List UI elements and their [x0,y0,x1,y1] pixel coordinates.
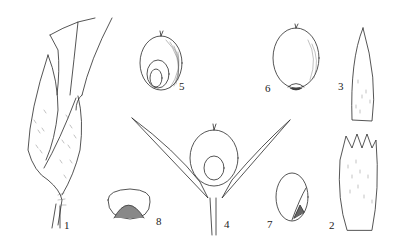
figure-label-3: 3 [338,80,344,92]
figure-8-cross-section [108,189,150,219]
figure-label-1: 1 [64,219,70,231]
figure-7-palea [276,173,308,221]
figure-label-8: 8 [156,215,162,227]
plate-drawing [0,0,396,243]
figure-1-spikelet [28,18,112,228]
figure-label-5: 5 [179,80,185,92]
botanical-plate: 1 2 3 4 5 6 7 8 [0,0,396,243]
figure-3-glume [352,28,374,121]
figure-label-2: 2 [329,219,335,231]
figure-label-7: 7 [267,218,273,230]
figure-2-lemma [339,134,377,230]
figure-6-caryopsis [273,24,319,90]
figure-label-6: 6 [265,82,271,94]
figure-label-4: 4 [224,218,230,230]
figure-5-caryopsis [140,31,182,90]
